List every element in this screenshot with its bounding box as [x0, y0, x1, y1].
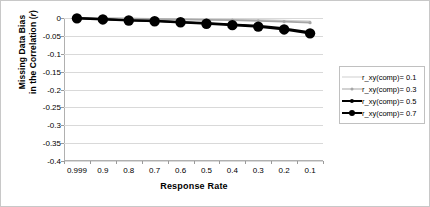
x-axis-tick-mark [90, 161, 91, 164]
legend-item[interactable]: r_xy(comp)= 0.5 [342, 95, 421, 107]
legend-item[interactable]: r_xy(comp)= 0.1 [342, 71, 421, 83]
legend-item-label: r_xy(comp)= 0.5 [362, 96, 416, 107]
data-point [98, 14, 108, 24]
x-axis-tick-label: 0.7 [149, 166, 160, 175]
x-axis-tick-label: 0.2 [279, 166, 290, 175]
data-point [253, 21, 263, 31]
y-axis-tick-label: -0.1 [17, 49, 61, 58]
legend-swatch-icon [342, 96, 362, 107]
x-axis-tick-mark [168, 161, 169, 164]
x-axis-tick-label: 0.5 [201, 166, 212, 175]
data-point [124, 15, 134, 25]
x-axis-tick-label: 0.8 [123, 166, 134, 175]
y-axis-tick-label: -0.05 [17, 31, 61, 40]
y-axis-tick-label: -0.4 [17, 157, 61, 166]
x-axis-tick-mark [142, 161, 143, 164]
data-point [308, 21, 311, 24]
data-point [227, 20, 237, 30]
data-point [283, 20, 286, 23]
y-axis-tick-label: -0.35 [17, 139, 61, 148]
y-axis-tick-label: -0.15 [17, 67, 61, 76]
data-point [175, 17, 185, 27]
x-axis-tick-label: 0.1 [304, 166, 315, 175]
data-point [305, 28, 315, 38]
legend-item[interactable]: r_xy(comp)= 0.3 [342, 83, 421, 95]
x-axis-tick-mark [116, 161, 117, 164]
legend-item[interactable]: r_xy(comp)= 0.7 [342, 107, 421, 119]
series-layer [64, 18, 323, 161]
data-point [72, 13, 82, 23]
x-axis-tick-mark [245, 161, 246, 164]
data-point [201, 19, 211, 29]
legend-swatch-icon [342, 72, 362, 83]
series-4 [72, 13, 316, 38]
x-axis-tick-mark [297, 161, 298, 164]
x-axis-tick-label: 0.999 [67, 166, 87, 175]
x-axis-tick-mark [271, 161, 272, 164]
x-axis-tick-label: 0.9 [97, 166, 108, 175]
chart-legend: r_xy(comp)= 0.1r_xy(comp)= 0.3r_xy(comp)… [339, 66, 425, 124]
legend-swatch-icon [342, 108, 362, 119]
y-axis-tick-label: -0.3 [17, 121, 61, 130]
x-axis-tick-mark [323, 161, 324, 164]
data-point [149, 16, 159, 26]
x-axis-tick-mark [64, 161, 65, 164]
legend-item-label: r_xy(comp)= 0.1 [362, 72, 416, 83]
x-axis-tick-label: 0.6 [175, 166, 186, 175]
x-axis-tick-mark [194, 161, 195, 164]
legend-swatch-icon [342, 84, 362, 95]
y-axis-tick-label: 0 [17, 14, 61, 23]
x-axis-title: Response Rate [63, 181, 325, 191]
legend-item-label: r_xy(comp)= 0.7 [362, 108, 416, 119]
x-axis-tick-label: 0.4 [227, 166, 238, 175]
y-axis-tick-label: -0.2 [17, 85, 61, 94]
x-axis-tick-label: 0.3 [253, 166, 264, 175]
data-point [279, 24, 289, 34]
y-axis-tick-label: -0.25 [17, 103, 61, 112]
legend-item-label: r_xy(comp)= 0.3 [362, 84, 416, 95]
plot-area: 0-0.05-0.1-0.15-0.2-0.25-0.3-0.35-0.4 0.… [64, 18, 323, 161]
x-axis-tick-mark [219, 161, 220, 164]
chart-figure: Missing Data Bias in the Correlation (r)… [0, 0, 430, 207]
